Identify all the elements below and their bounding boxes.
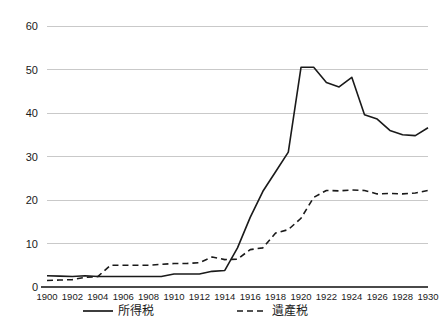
x-tick-label: 1920 — [290, 291, 311, 302]
data-series — [47, 67, 428, 280]
y-tick-label: 40 — [26, 107, 38, 119]
x-tick-label: 1926 — [367, 291, 388, 302]
chart-container: 0102030405060 19001902190419061908191019… — [0, 0, 446, 327]
series-line-1 — [47, 67, 428, 276]
x-tick-label: 1902 — [62, 291, 83, 302]
x-tick-label: 1924 — [341, 291, 362, 302]
x-tick-label: 1910 — [163, 291, 184, 302]
y-tick-label: 60 — [26, 20, 38, 32]
x-tick-label: 1918 — [265, 291, 286, 302]
x-tick-label: 1900 — [36, 291, 57, 302]
x-tick-label: 1908 — [138, 291, 159, 302]
gridlines — [47, 26, 428, 244]
x-tick-label: 1928 — [392, 291, 413, 302]
y-tick-label: 50 — [26, 64, 38, 76]
x-tick-label: 1904 — [87, 291, 108, 302]
y-tick-label: 10 — [26, 238, 38, 250]
x-axis-tick-labels: 1900190219041906190819101912191419161918… — [36, 291, 438, 302]
x-tick-label: 1914 — [214, 291, 235, 302]
series-line-2 — [47, 190, 428, 280]
x-tick-label: 1916 — [240, 291, 261, 302]
x-tick-label: 1912 — [189, 291, 210, 302]
legend-label-1: 所得税 — [118, 303, 154, 318]
x-tick-label: 1922 — [316, 291, 337, 302]
x-tick-label: 1930 — [417, 291, 438, 302]
legend-label-2: 遺產税 — [272, 303, 308, 318]
y-tick-label: 30 — [26, 151, 38, 163]
x-tick-label: 1906 — [113, 291, 134, 302]
line-chart: 0102030405060 19001902190419061908191019… — [0, 0, 446, 327]
y-axis-tick-labels: 0102030405060 — [26, 20, 38, 293]
chart-legend: 所得税遺產税 — [83, 303, 308, 318]
y-tick-label: 20 — [26, 194, 38, 206]
